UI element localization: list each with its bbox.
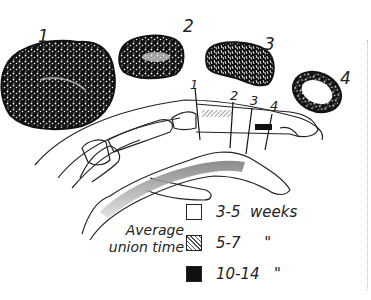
finger-marker-label-2: 2 [230, 89, 238, 102]
scan-edge-divider [367, 40, 369, 290]
legend-item-text: 3-5 weeks [216, 203, 297, 221]
zone-hatched [202, 110, 232, 117]
cross-section-label-4: 4 [340, 70, 351, 87]
legend-title-line1: Average [104, 222, 184, 239]
cross-section-label-3: 3 [264, 36, 275, 53]
legend-item-hatched: 5-7 " [186, 234, 271, 252]
legend-item-white: 3-5 weeks [186, 203, 297, 221]
legend-item-black: 10-14 " [186, 265, 281, 283]
legend-item-text: 10-14 " [216, 265, 281, 283]
swatch-white-icon [186, 204, 202, 220]
cross-section-1 [1, 41, 114, 129]
legend-item-text: 5-7 " [216, 234, 271, 252]
legend-title: Average union time [104, 222, 184, 256]
swatch-black-icon [186, 266, 202, 282]
finger-marker-label-1: 1 [190, 78, 198, 91]
cross-section-label-1: 1 [38, 28, 49, 45]
cross-section-label-2: 2 [183, 18, 194, 35]
cross-section-2 [119, 36, 183, 79]
finger-marker-label-3: 3 [250, 94, 258, 107]
swatch-hatched-icon [186, 235, 202, 251]
cross-section-4 [286, 64, 347, 120]
hand-bone-illustration [0, 0, 371, 300]
legend-title-line2: union time [104, 239, 184, 256]
finger-marker-label-4: 4 [270, 99, 278, 112]
